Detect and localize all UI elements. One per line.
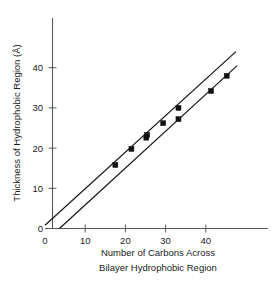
series-line-upper-line: [45, 52, 236, 226]
series-line-group: [45, 52, 237, 229]
data-point: [176, 105, 181, 110]
x-tick-label: 30: [160, 235, 171, 246]
data-point: [209, 89, 214, 94]
x-tick-label-group: 010203040: [42, 235, 211, 246]
data-point: [129, 146, 134, 151]
x-tick-label: 20: [120, 235, 131, 246]
data-point: [144, 135, 149, 140]
chart-figure: 010203040 010203040 Thickness of Hydroph…: [0, 0, 273, 290]
data-point: [113, 162, 118, 167]
chart-canvas: 010203040 010203040 Thickness of Hydroph…: [0, 0, 273, 290]
data-point: [224, 73, 229, 78]
y-tick-label-group: 010203040: [32, 62, 43, 234]
series-marker-group: [113, 73, 229, 167]
y-tick-label: 0: [38, 223, 43, 234]
y-tick-label: 30: [32, 102, 43, 113]
data-point: [176, 117, 181, 122]
data-point: [161, 121, 166, 126]
y-tick-label: 20: [32, 143, 43, 154]
y-tick-label: 40: [32, 62, 43, 73]
x-tick-label: 40: [201, 235, 212, 246]
x-tick-label: 0: [42, 235, 47, 246]
x-axis-title-line1: Number of Carbons Across: [101, 247, 215, 258]
x-tick-label: 10: [80, 235, 91, 246]
y-tick-label: 10: [32, 183, 43, 194]
x-axis-title-line2: Bilayer Hydrophobic Region: [99, 262, 217, 273]
y-axis-title: Thickness of Hydrophobic Region (Å): [11, 44, 22, 201]
